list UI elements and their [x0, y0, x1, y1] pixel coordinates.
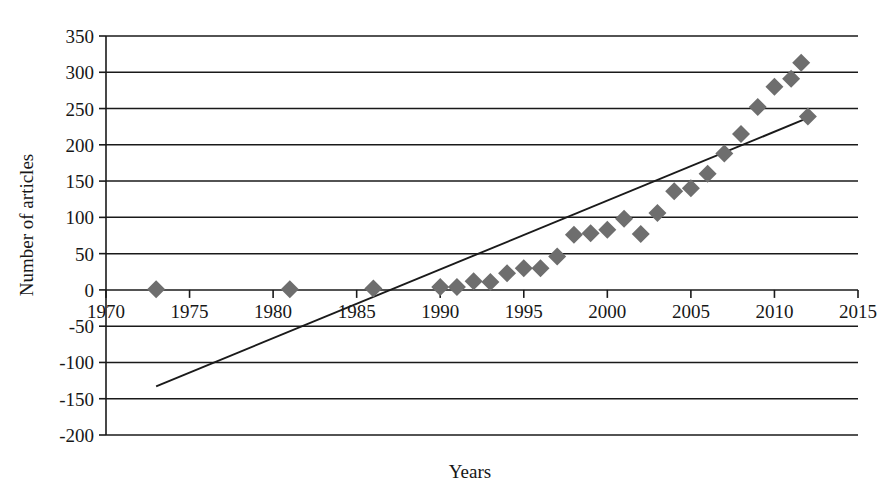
- y-axis-tick-label: 350: [66, 26, 95, 47]
- y-axis-tick-label: 0: [85, 280, 95, 301]
- x-axis-tick-label: 1995: [505, 301, 543, 322]
- y-axis-tick-label: 150: [66, 171, 95, 192]
- x-axis-tick-label: 2000: [588, 301, 626, 322]
- x-axis-title: Years: [449, 461, 491, 482]
- scatter-chart: -200-150-100-50050100150200250300350 197…: [0, 0, 892, 498]
- x-axis-tick-label: 2005: [672, 301, 710, 322]
- x-axis-tick-label: 1975: [171, 301, 209, 322]
- y-axis-title: Number of articles: [16, 154, 37, 296]
- x-axis-tick-label: 1980: [254, 301, 292, 322]
- x-axis-tick-label: 2015: [839, 301, 877, 322]
- y-axis-tick-label: 250: [66, 99, 95, 120]
- y-axis-tick-label: 300: [66, 62, 95, 83]
- y-axis-tick-label: 50: [75, 244, 94, 265]
- y-axis-tick-label: 100: [66, 207, 95, 228]
- x-axis-tick-label: 2010: [755, 301, 793, 322]
- y-axis-tick-label: -200: [59, 425, 94, 446]
- y-axis-tick-label: -150: [59, 389, 94, 410]
- x-axis-tick-label: 1990: [421, 301, 459, 322]
- x-axis-tick-label: 1970: [87, 301, 125, 322]
- y-axis-tick-label: -100: [59, 352, 94, 373]
- chart-container: -200-150-100-50050100150200250300350 197…: [0, 0, 892, 498]
- y-axis-tick-label: 200: [66, 135, 95, 156]
- chart-background: [0, 0, 892, 498]
